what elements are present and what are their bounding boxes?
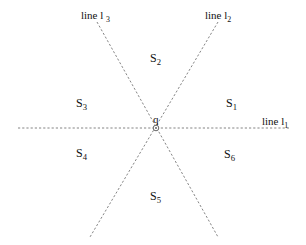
center-point: q bbox=[153, 113, 159, 131]
sector-label-s6: S6 bbox=[224, 147, 236, 163]
sector-label-s4-subscript: 4 bbox=[83, 152, 88, 162]
sector-label-s4: S4 bbox=[76, 146, 88, 162]
line-label-l3: line l 3 bbox=[81, 9, 110, 24]
sector-label-s1-text: S bbox=[226, 96, 233, 110]
sector-label-s5-text: S bbox=[150, 189, 157, 203]
sector-diagram: line l1line l2line l 3S1S2S3S4S5S6 q bbox=[0, 0, 306, 245]
sector-label-s4-text: S bbox=[76, 146, 83, 160]
line-label-l3-text: line l bbox=[81, 9, 106, 21]
point-q-dot bbox=[155, 127, 157, 129]
sector-label-s2-subscript: 2 bbox=[157, 57, 161, 67]
point-q-label: q bbox=[153, 113, 159, 125]
sector-label-s5-subscript: 5 bbox=[157, 195, 161, 205]
sector-label-s3-text: S bbox=[76, 96, 83, 110]
line-label-l2-text: line l bbox=[205, 9, 227, 21]
sector-label-s3-subscript: 3 bbox=[83, 102, 87, 112]
sector-label-s2-text: S bbox=[150, 51, 157, 65]
line-label-l2: line l2 bbox=[205, 9, 231, 24]
sector-label-s3: S3 bbox=[76, 96, 87, 112]
line-label-l3-subscript: 3 bbox=[106, 15, 110, 24]
sector-label-s1-subscript: 1 bbox=[233, 102, 237, 112]
sector-label-s6-text: S bbox=[224, 147, 231, 161]
line-label-l2-subscript: 2 bbox=[227, 15, 231, 24]
sector-label-s6-subscript: 6 bbox=[231, 153, 236, 163]
labels-layer: line l1line l2line l 3S1S2S3S4S5S6 bbox=[76, 9, 288, 205]
line-label-l1-text: line l bbox=[262, 115, 284, 127]
sector-label-s2: S2 bbox=[150, 51, 161, 67]
line-label-l1-subscript: 1 bbox=[284, 121, 288, 130]
sector-label-s1: S1 bbox=[226, 96, 237, 112]
sector-label-s5: S5 bbox=[150, 189, 161, 205]
